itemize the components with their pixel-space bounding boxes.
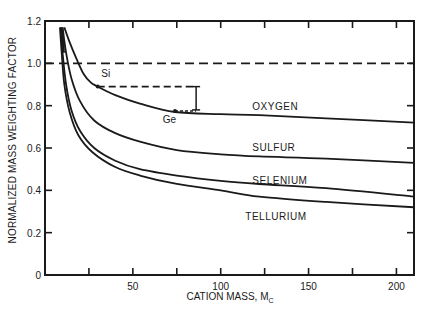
annotations: SiGe [96, 68, 200, 125]
x-axis-label: CATION MASS, MC [130, 291, 330, 304]
point-label-ge: Ge [163, 114, 177, 125]
y-tick-label: 0.8 [27, 101, 41, 112]
x-axis-label-text: CATION MASS, M [186, 291, 268, 302]
y-tick-label: 0.6 [27, 143, 41, 154]
curve-oxygen [64, 27, 414, 122]
x-tick-label: 200 [388, 281, 405, 292]
y-tick-label: 0 [35, 270, 41, 281]
curve-label-tellurium: TELLURIUM [245, 211, 306, 222]
curve-tellurium [60, 27, 414, 207]
curves-origin-stub [62, 27, 64, 52]
curve-label-sulfur: SULFUR [252, 142, 295, 153]
y-tick-label: 0.2 [27, 228, 41, 239]
plot-border [45, 21, 414, 275]
y-tick-label: 1.2 [27, 16, 41, 27]
mass-weighting-chart: OXYGENSULFURSELENIUMTELLURIUM SiGe 50100… [0, 0, 431, 317]
y-tick-label: 1.0 [27, 58, 41, 69]
curve-selenium [61, 27, 414, 196]
x-axis-label-subscript: C [268, 297, 273, 304]
curve-label-oxygen: OXYGEN [252, 101, 298, 112]
y-tick-label: 0.4 [27, 185, 41, 196]
curve-label-selenium: SELENIUM [252, 175, 307, 186]
y-axis-label: NORMALIZED MASS WEIGHTING FACTOR [7, 44, 18, 244]
curves: OXYGENSULFURSELENIUMTELLURIUM [60, 27, 414, 222]
plot-frame [45, 21, 414, 275]
point-label-si: Si [101, 68, 110, 79]
